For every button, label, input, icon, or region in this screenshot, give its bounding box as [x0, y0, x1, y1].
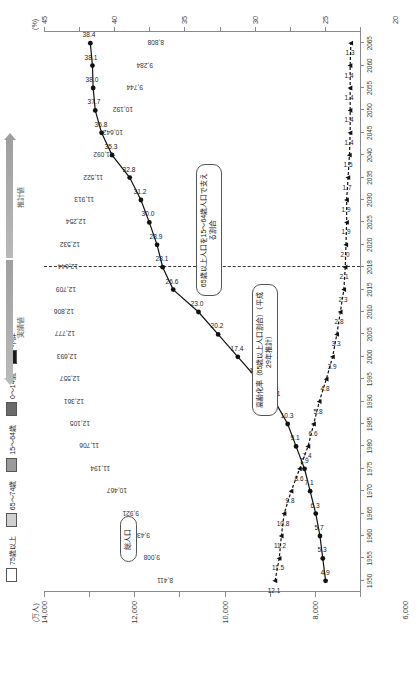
support-ratio-value: 1.9	[341, 206, 350, 213]
stacked-bar	[157, 551, 360, 566]
legend-65-74: 65～74歳	[6, 481, 17, 528]
stacked-bar	[91, 192, 360, 207]
stacked-bar	[124, 484, 360, 499]
y-tick: 14,000	[44, 592, 45, 597]
x-tick-label: 2055	[366, 81, 373, 95]
bar-total-label: 12,105	[70, 420, 90, 427]
bar-total-label: 12,361	[64, 398, 84, 405]
x-tick-label: 2030	[366, 193, 373, 207]
support-ratio-value: 3.9	[327, 362, 336, 369]
aging-rate-value: 37.7	[88, 98, 101, 105]
x-tick-label: 2000	[366, 350, 373, 364]
stacked-bar	[120, 125, 360, 140]
aging-rate-value: 23.0	[191, 300, 204, 307]
population-aging-chart: 75歳以上65～74歳15～64歳0～14歳不詳 実績値推計値 (万人) 02,…	[0, 0, 417, 678]
x-tick	[360, 266, 364, 267]
x-tick-label: 1955	[366, 551, 373, 565]
stacked-bar	[83, 215, 360, 230]
actual-period-label: 実績値	[15, 317, 25, 338]
support-ratio-value: 11.2	[274, 542, 286, 549]
aging-rate-value: 36.8	[94, 120, 107, 127]
support-ratio-value: 2.8	[335, 318, 344, 325]
y-tick-label: 14,000	[40, 601, 49, 624]
stacked-bar	[140, 80, 360, 95]
stacked-bar	[100, 170, 360, 185]
bar-total-label: 11,706	[79, 442, 99, 449]
x-tick	[360, 199, 364, 200]
x-tick-label: 1985	[366, 417, 373, 431]
support-ratio-value: 1.4	[345, 94, 354, 101]
rotated-chart-wrapper: 75歳以上65～74歳15～64歳0～14歳不詳 実績値推計値 (万人) 02,…	[0, 0, 417, 678]
x-tick	[360, 132, 364, 133]
x-tick	[360, 356, 364, 357]
support-ratio-value: 1.4	[345, 138, 354, 145]
y-tick: 0	[360, 592, 361, 597]
aging-rate-value: 30.0	[142, 210, 155, 217]
legend-label: 75歳以上	[7, 536, 17, 565]
x-tick	[360, 535, 364, 536]
stacked-bar	[71, 304, 360, 319]
x-tick-label: 2018	[366, 260, 373, 274]
x-tick	[360, 580, 364, 581]
x-tick	[360, 468, 364, 469]
aging-rate-value: 17.4	[230, 344, 243, 351]
y-tick: 6,000	[225, 592, 226, 597]
y-tick-label: 6,000	[401, 601, 410, 620]
support-ratio-value: 10.8	[277, 519, 289, 526]
x-tick-label: 2060	[366, 59, 373, 73]
support-ratio-value: 6.6	[308, 430, 317, 437]
x-axis: (年) 195019551960196519701975198019851990…	[360, 31, 361, 592]
aging-rate-value: 32.8	[122, 165, 135, 172]
estimate-period-arrow	[6, 140, 13, 258]
support-ratio-value: 8.6	[294, 474, 303, 481]
support-ratio-value: 1.9	[341, 228, 350, 235]
support-ratio-value: 1.4	[345, 116, 354, 123]
aging-rate-value: 38.4	[83, 31, 96, 38]
aging-rate-value: 10.3	[280, 412, 293, 419]
y-tick: 10,000	[134, 592, 135, 597]
x-tick-label: 2015	[366, 283, 373, 297]
x-tick-label: 1995	[366, 372, 373, 386]
y-tick: 12,000	[89, 592, 90, 597]
legend-swatch	[6, 402, 17, 416]
x-tick	[360, 109, 364, 110]
x-tick-label: 1970	[366, 484, 373, 498]
aging-rate-value: 38.1	[85, 53, 98, 60]
x-tick-label: 2020	[366, 238, 373, 252]
support-ratio-value: 11.5	[272, 564, 284, 571]
x-tick-label: 2050	[366, 103, 373, 117]
legend-swatch	[6, 513, 17, 527]
stacked-bar	[110, 148, 360, 163]
x-tick	[360, 87, 364, 88]
x-tick-label: 1975	[366, 462, 373, 476]
aging-rate-value: 9.1	[291, 434, 300, 441]
bar-total-label: 11,913	[74, 196, 94, 203]
bar-total-label: 12,709	[56, 286, 76, 293]
x-tick	[360, 378, 364, 379]
support-ratio-value: 1.7	[343, 183, 352, 190]
x-tick	[360, 557, 364, 558]
x-tick-label: 2045	[366, 126, 373, 140]
x-tick	[360, 311, 364, 312]
aging-rate-value: 28.1	[155, 255, 168, 262]
bar-total-label: 12,254	[66, 218, 86, 225]
aging-rate-value: 20.2	[211, 322, 224, 329]
support-ratio-value: 2.1	[340, 273, 349, 280]
stacked-bar	[74, 349, 360, 364]
y-tick-label: 10,000	[220, 601, 229, 624]
bar-total-label: 11,194	[91, 465, 111, 472]
x-tick	[360, 154, 364, 155]
bar-total-label: 11,522	[83, 174, 103, 181]
x-tick	[360, 513, 364, 514]
x-tick-label: 2035	[366, 171, 373, 185]
x-tick-label: 2040	[366, 148, 373, 162]
stacked-bar	[136, 506, 360, 521]
callout-aging-rate: 高齢化率（65歳以上人口割合）（平成29年推計）	[252, 284, 278, 416]
actual-period-arrow	[6, 260, 13, 378]
stacked-bar	[130, 103, 360, 118]
bar-total-label: 9,744	[127, 84, 144, 91]
x-tick	[360, 221, 364, 222]
support-ratio-value: 2.3	[338, 295, 347, 302]
period-arrows: 実績値推計値	[6, 140, 13, 378]
support-ratio-value: 1.5	[344, 161, 353, 168]
